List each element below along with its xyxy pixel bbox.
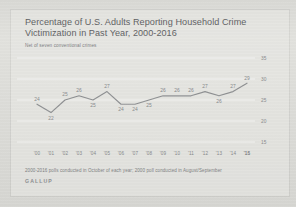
- x-axis-tick-label: '00: [34, 151, 40, 156]
- x-axis-tick-label: '06: [118, 151, 124, 156]
- screenshot-page: Percentage of U.S. Adults Reporting Hous…: [0, 0, 296, 207]
- y-axis-tick-label: 25: [261, 98, 267, 103]
- data-point-label: 25: [90, 103, 96, 108]
- y-axis-tick-label: 20: [261, 119, 267, 124]
- line-chart: 1520253035 24222526252724242526262627262…: [15, 52, 285, 152]
- data-point-label: 26: [216, 99, 222, 104]
- data-point-label: 22: [48, 116, 54, 121]
- data-point-label: 26: [188, 88, 194, 93]
- data-point-label: 26: [160, 88, 166, 93]
- y-axis-tick-label: 30: [261, 77, 267, 82]
- x-axis-tick-label: '04: [90, 151, 96, 156]
- chart-plot-area: 1520253035 24222526252724242526262627262…: [15, 52, 285, 152]
- chart-point-labels: 24222526252724242526262627262729: [34, 76, 250, 121]
- data-point-label: 27: [104, 84, 110, 89]
- data-point-label: 27: [202, 84, 208, 89]
- x-axis-tick-label: '01: [48, 151, 54, 156]
- chart-x-axis-labels: '00'01'02'03'04'05'06'07'08'09'10'11'12'…: [15, 151, 285, 163]
- y-axis-tick-label: 35: [261, 56, 267, 61]
- y-axis-tick-label: 15: [261, 140, 267, 145]
- x-axis-tick-label: '10: [174, 151, 180, 156]
- x-axis-tick-label: '12: [202, 151, 208, 156]
- data-point-label: 26: [76, 88, 82, 93]
- chart-card: Percentage of U.S. Adults Reporting Hous…: [11, 10, 289, 196]
- x-axis-tick-label: '03: [76, 151, 82, 156]
- x-axis-tick-label: '08: [146, 151, 152, 156]
- x-axis-tick-label: '16: [244, 151, 250, 156]
- data-point-label: 24: [132, 107, 138, 112]
- data-point-label: 25: [62, 92, 68, 97]
- data-point-label: 29: [244, 76, 250, 81]
- chart-subtitle: Net of seven conventional crimes: [25, 43, 255, 49]
- x-axis-tick-label: '14: [230, 151, 236, 156]
- x-axis-tick-label: '07: [132, 151, 138, 156]
- x-axis-tick-label: '05: [104, 151, 110, 156]
- data-point-label: 24: [118, 107, 124, 112]
- chart-footnote: 2000-2016 polls conducted in October of …: [25, 168, 275, 174]
- data-point-label: 26: [174, 88, 180, 93]
- data-point-label: 27: [230, 84, 236, 89]
- x-axis-tick-label: '02: [62, 151, 68, 156]
- data-point-label: 24: [34, 97, 40, 102]
- gallup-logo: GALLUP: [25, 178, 53, 184]
- data-point-label: 25: [146, 103, 152, 108]
- x-axis-tick-label: '11: [188, 151, 194, 156]
- chart-data-line: [37, 83, 247, 112]
- page-title: Percentage of U.S. Adults Reporting Hous…: [25, 17, 269, 40]
- chart-y-axis-labels: 1520253035: [261, 56, 267, 145]
- x-axis-tick-label: '13: [216, 151, 222, 156]
- x-axis-tick-label: '09: [160, 151, 166, 156]
